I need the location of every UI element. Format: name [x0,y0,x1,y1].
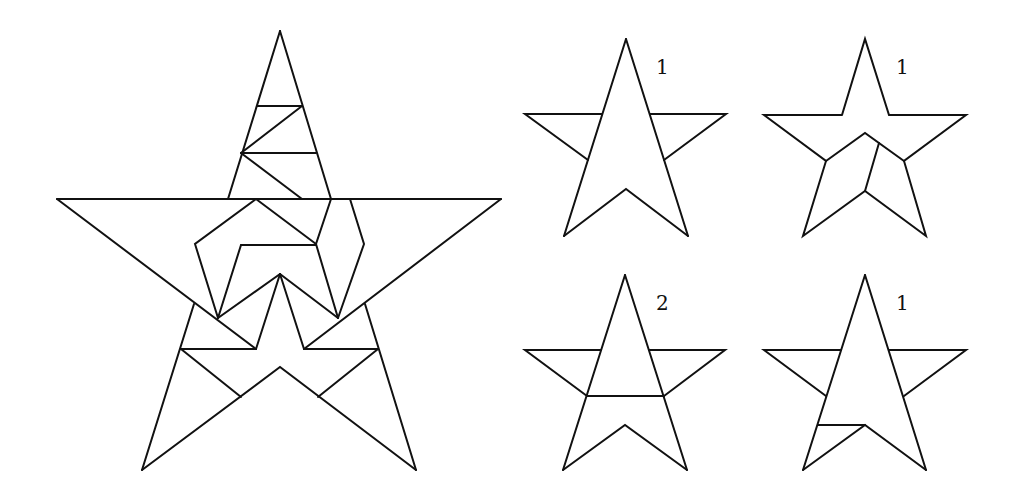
inner-cut-d [316,199,338,318]
outline [764,39,966,236]
count-label-top-left: 1 [656,57,669,77]
inner-piece-right-outline [338,199,364,318]
small-star-top-right [764,39,966,236]
spike-cut-4 [241,153,302,199]
count-label-top-right: 1 [896,57,909,77]
count-label-bottom-right: 1 [896,293,909,313]
bottom-right-leg-outer [365,304,416,470]
top-spike-right-edge [280,31,331,199]
main-star [57,31,501,470]
diagram-canvas [0,0,1019,503]
inner-apex-left [218,274,280,318]
inner-cut-c [218,245,241,318]
inner-apex-down-right [280,274,304,349]
inner-apex-down-left [256,274,280,349]
small-star-bottom-left [525,275,725,470]
small-star-bottom-right [764,275,966,470]
inner-piece-left-outline [195,199,256,318]
small-star-top-left [525,39,726,236]
bottom-notch [142,367,416,470]
leg-diag-right [318,349,378,397]
inner-cut-a [256,199,316,244]
notch [563,425,687,470]
top-spike-left-edge [228,31,280,199]
notch [564,189,688,236]
bottom-left-leg-outer [142,304,194,470]
notch [803,425,926,470]
inner-cut [865,143,879,191]
leg-diag-left [181,349,241,397]
right-arm-lower-edge [304,199,501,349]
inner-chevron [826,133,904,161]
spike-left [564,39,626,236]
spike-left [563,275,625,470]
inner-apex-right [280,274,338,318]
spike-left [803,275,865,470]
count-label-bottom-left: 2 [656,293,669,313]
